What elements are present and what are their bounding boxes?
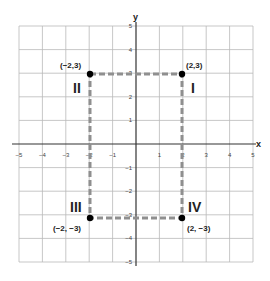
svg-text:5: 5 <box>251 152 255 158</box>
svg-text:−2: −2 <box>125 188 133 194</box>
svg-text:1: 1 <box>158 152 162 158</box>
point-label-q1: (2,3) <box>186 61 203 70</box>
svg-text:−5: −5 <box>125 259 133 265</box>
point-label-q3: (−2, −3) <box>53 224 81 233</box>
quadrant-label-iv: IV <box>188 199 202 215</box>
svg-text:−3: −3 <box>62 152 70 158</box>
quadrant-label-i: I <box>191 80 195 96</box>
coordinate-plane: x y −5 −4 −3 −2 −1 1 2 3 4 5 5 4 3 2 1 −… <box>0 0 270 281</box>
point-q4 <box>179 215 185 221</box>
point-q1 <box>179 71 185 77</box>
y-axis-label: y <box>133 12 138 22</box>
point-q2 <box>87 71 93 77</box>
quadrant-label-iii: III <box>70 199 82 215</box>
svg-text:3: 3 <box>205 152 209 158</box>
svg-text:4: 4 <box>228 152 232 158</box>
point-label-q2: (−2,3) <box>60 61 81 70</box>
x-axis-label: x <box>256 139 261 149</box>
svg-text:−5: −5 <box>16 152 24 158</box>
svg-text:−4: −4 <box>39 152 47 158</box>
point-q3 <box>87 215 93 221</box>
svg-text:−4: −4 <box>125 235 133 241</box>
quadrant-label-ii: II <box>73 80 81 96</box>
svg-text:−1: −1 <box>125 165 133 171</box>
svg-text:−1: −1 <box>109 152 117 158</box>
point-label-q4: (2, −3) <box>187 224 211 233</box>
